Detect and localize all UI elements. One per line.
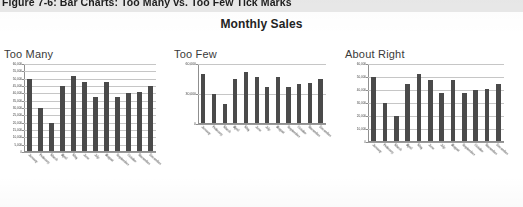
y-axis-tick-label: 10,000 [357,127,366,131]
bar [212,94,216,124]
x-axis-tick-label: February [38,153,50,165]
bar [38,108,42,152]
bar [104,82,108,152]
bar [201,74,205,124]
bar [27,79,31,152]
gridline [24,152,156,153]
x-axis-tick-label: June [428,143,436,151]
x-axis-tick-label: April [405,143,412,150]
bar [405,84,410,143]
gridline [368,142,504,143]
bar [428,80,433,142]
bar [286,87,290,125]
y-axis-tick-mark [366,142,368,143]
bar [148,86,152,152]
figure-caption-banner: Figure 7-6: Bar Charts: Too Many vs. Too… [0,0,523,12]
chart-panel-title: Too Few [174,48,340,60]
y-axis-labels: 05,00010,00015,00020,00025,00030,00035,0… [4,64,24,152]
bar [255,77,259,125]
x-axis-tick-label: August [450,143,460,153]
chart-panel-too-few: Too Few 030,00060,000JanuaryFebruaryMarc… [174,48,340,64]
y-axis-tick-label: 60,000 [357,62,366,66]
bar [417,74,422,142]
bar-series [368,64,504,142]
x-axis-tick-label: April [60,153,67,160]
figure-caption-text: Figure 7-6: Bar Charts: Too Many vs. Too… [2,0,292,8]
x-axis-line [198,123,326,124]
x-axis-tick-label: May [243,125,250,132]
y-axis-labels: 010,00020,00030,00040,00050,00060,000 [345,64,368,142]
x-axis-tick-label: July [439,143,446,150]
bar [496,84,501,143]
chart-panel-title: About Right [345,48,520,60]
bar [276,77,280,125]
bar [462,93,467,142]
bar [223,104,227,124]
bar [265,87,269,125]
bar [71,76,75,152]
x-axis-tick-label: April [233,125,240,132]
y-axis-labels: 030,00060,000 [174,64,198,124]
bar [244,72,248,124]
x-axis-tick-label: June [254,125,262,133]
x-axis-tick-label: July [93,153,100,160]
gridline [198,124,326,125]
bar [383,103,388,142]
bar [93,97,97,152]
figure-title: Monthly Sales [0,17,523,31]
y-axis-tick-label: 20,000 [13,121,22,125]
bar [371,77,376,142]
y-axis-tick-label: 40,000 [357,88,366,92]
y-axis-tick-label: 10,000 [13,135,22,139]
bar-series [24,64,156,152]
y-axis-tick-label: 60,000 [13,62,22,66]
x-axis-tick-label: August [104,153,114,163]
bar [137,92,141,152]
x-axis-tick-label: January [27,153,38,164]
y-axis-tick-label: 30,000 [13,106,22,110]
y-axis-tick-label: 20,000 [357,114,366,118]
x-axis-line [368,141,504,142]
x-axis-tick-label: January [371,143,382,154]
y-axis-tick-mark [22,152,24,153]
x-axis-tick-label: January [201,125,212,136]
y-axis-tick-label: 30,000 [357,101,366,105]
x-axis-tick-label: August [275,125,285,135]
chart-panel-title: Too Many [4,48,170,60]
x-axis-tick-label: May [71,153,78,160]
plot-box [368,64,504,142]
bar [115,97,119,152]
y-axis-tick-label: 45,000 [13,84,22,88]
bar [451,80,456,142]
bar [82,82,86,152]
bar [318,79,322,124]
y-axis-tick-label: 40,000 [13,91,22,95]
bar [439,93,444,142]
bar [473,90,478,142]
bar [60,86,64,152]
y-axis-tick-mark [196,124,198,125]
bar [126,93,130,152]
y-axis-tick-label: 50,000 [357,75,366,79]
y-axis-tick-label: 60,000 [186,62,196,66]
plot-box [198,64,326,124]
y-axis-tick-label: 55,000 [13,69,22,73]
x-axis-tick-label: December [496,143,510,156]
bar [233,79,237,124]
x-axis-tick-label: March [394,143,403,152]
bar-series [198,64,326,124]
y-axis-tick-label: 15,000 [13,128,22,132]
bar [394,116,399,142]
y-axis-tick-label: 25,000 [13,113,22,117]
y-axis-tick-label: 30,000 [186,92,196,96]
x-axis-tick-label: May [416,143,423,150]
y-axis-tick-label: 5,000 [15,143,23,147]
plot-box [24,64,156,152]
bar [485,89,490,142]
bar [308,83,312,124]
y-axis-tick-label: 50,000 [13,77,22,81]
x-axis-tick-label: June [82,153,90,161]
bar [297,84,301,124]
x-axis-line [24,151,156,152]
x-axis-tick-label: July [265,125,272,132]
